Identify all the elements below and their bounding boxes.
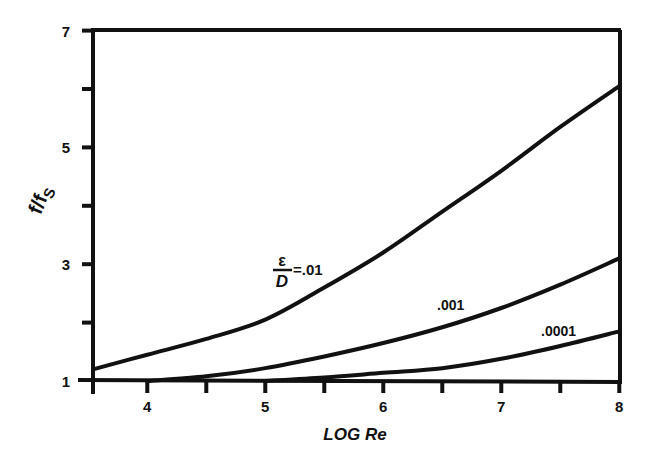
y-axis-title: f/fS xyxy=(24,182,59,219)
svg-text:f/fS: f/fS xyxy=(24,182,59,219)
curve-label-0001: .0001 xyxy=(541,323,576,339)
x-tick-label: 5 xyxy=(261,398,269,415)
curve-label-eps-01: ε D =.01 xyxy=(273,252,323,291)
y-tick-label: 3 xyxy=(62,256,70,273)
chart-figure: 1357 45678 LOG Re f/fS ε D =.01 .001 .00… xyxy=(0,0,658,459)
x-tick-label: 8 xyxy=(615,398,623,415)
x-tick-label: 4 xyxy=(143,398,152,415)
x-tick-label: 7 xyxy=(497,398,505,415)
curve-eps-001 xyxy=(147,258,619,381)
y-tick-labels: 1357 xyxy=(62,23,70,390)
plot-frame xyxy=(78,28,621,394)
x-axis-title: LOG Re xyxy=(323,425,386,444)
eps-value: =.01 xyxy=(293,261,323,278)
y-tick-label: 5 xyxy=(62,139,70,156)
x-tick-label: 6 xyxy=(379,398,387,415)
curve-label-001: .001 xyxy=(437,297,464,313)
x-tick-labels: 45678 xyxy=(143,398,623,415)
y-tick-label: 1 xyxy=(62,373,70,390)
y-tick-label: 7 xyxy=(62,23,70,40)
eps-numerator: ε xyxy=(278,252,286,269)
eps-denominator: D xyxy=(276,272,288,291)
